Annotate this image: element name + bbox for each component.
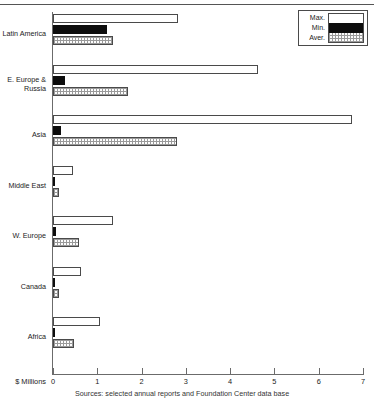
bar-min bbox=[53, 76, 65, 85]
bar-max bbox=[53, 216, 113, 225]
bar-aver bbox=[53, 137, 177, 146]
category-label: Latin America bbox=[0, 30, 46, 39]
x-tick-mark bbox=[319, 368, 320, 375]
x-tick-label: 1 bbox=[87, 377, 107, 386]
bar-max bbox=[53, 317, 100, 326]
bar-stack bbox=[53, 14, 178, 47]
category-label: W. Europe bbox=[0, 232, 46, 241]
category-label: Africa bbox=[0, 333, 46, 342]
bar-aver bbox=[53, 238, 79, 247]
bar-aver bbox=[53, 87, 128, 96]
legend-label-min: Min. bbox=[302, 23, 328, 33]
legend-item-max: Max. bbox=[302, 13, 364, 23]
bar-aver bbox=[53, 339, 74, 348]
legend-swatch-aver-icon bbox=[328, 33, 364, 43]
bar-min bbox=[53, 126, 61, 135]
x-tick-mark bbox=[274, 368, 275, 375]
x-tick-label: 0 bbox=[43, 377, 63, 386]
bar-min bbox=[53, 177, 55, 186]
bar-stack bbox=[53, 317, 100, 350]
bar-stack bbox=[53, 216, 113, 249]
x-tick-label: 6 bbox=[309, 377, 329, 386]
legend-swatch-max-icon bbox=[328, 13, 364, 23]
x-tick-mark bbox=[142, 368, 143, 375]
bar-max bbox=[53, 115, 352, 124]
legend-item-min: Min. bbox=[302, 23, 364, 33]
x-tick-mark bbox=[230, 368, 231, 375]
bar-aver bbox=[53, 289, 59, 298]
bar-max bbox=[53, 65, 258, 74]
category-label: Canada bbox=[0, 283, 46, 292]
x-axis-title: $ Millions bbox=[0, 377, 46, 386]
bar-max bbox=[53, 267, 81, 276]
x-tick-mark bbox=[53, 368, 54, 375]
bar-min bbox=[53, 25, 107, 34]
bar-stack bbox=[53, 267, 81, 300]
category-label: Middle East bbox=[0, 182, 46, 191]
bar-stack bbox=[53, 166, 73, 199]
bar-max bbox=[53, 166, 73, 175]
legend-label-max: Max. bbox=[302, 13, 328, 23]
x-tick-mark bbox=[186, 368, 187, 375]
bar-min bbox=[53, 227, 56, 236]
bar-min bbox=[53, 278, 55, 287]
chart-legend: Max. Min. Aver. bbox=[298, 10, 368, 46]
legend-swatch-min-icon bbox=[328, 23, 364, 33]
x-tick-label: 3 bbox=[176, 377, 196, 386]
bar-min bbox=[53, 328, 55, 337]
legend-item-aver: Aver. bbox=[302, 33, 364, 43]
x-tick-mark bbox=[363, 368, 364, 375]
x-tick-label: 2 bbox=[132, 377, 152, 386]
legend-label-aver: Aver. bbox=[302, 33, 328, 43]
bar-aver bbox=[53, 188, 59, 197]
x-tick-label: 5 bbox=[264, 377, 284, 386]
category-label: E. Europe & Russia bbox=[0, 76, 46, 93]
bar-chart: Latin AmericaE. Europe & RussiaAsiaMiddl… bbox=[0, 0, 374, 404]
x-tick-label: 7 bbox=[353, 377, 373, 386]
x-tick-label: 4 bbox=[220, 377, 240, 386]
bar-aver bbox=[53, 36, 113, 45]
x-tick-mark bbox=[97, 368, 98, 375]
source-note: Sources: selected annual reports and Fou… bbox=[75, 389, 289, 398]
bar-stack bbox=[53, 115, 352, 148]
bar-stack bbox=[53, 65, 258, 98]
category-label: Asia bbox=[0, 131, 46, 140]
x-axis-line bbox=[52, 374, 363, 375]
bar-max bbox=[53, 14, 178, 23]
